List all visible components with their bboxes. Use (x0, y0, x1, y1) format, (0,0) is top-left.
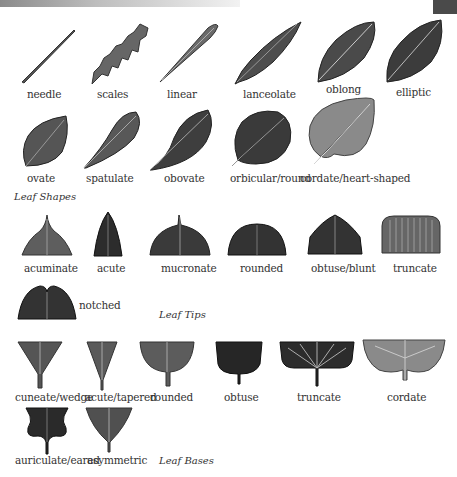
auriculate-base-icon (26, 408, 68, 454)
label-cordate-heart: cordate/heart-shaped (300, 172, 410, 184)
label-cuneate-wedge: cuneate/wedge (15, 391, 93, 403)
label-acute: acute (97, 262, 125, 274)
top-gradient-bar (0, 0, 240, 7)
label-needle: needle (27, 88, 61, 100)
label-mucronate: mucronate (161, 262, 217, 274)
ovate-leaf-icon (22, 114, 70, 168)
label-acute-tapered: acute/tapered (85, 391, 157, 403)
label-obovate: obovate (164, 172, 205, 184)
spatulate-leaf-icon (82, 110, 142, 170)
mucronate-tip-icon (150, 213, 210, 257)
scales-leaf-icon (88, 22, 150, 88)
label-obtuse-blunt: obtuse/blunt (311, 262, 376, 274)
label-linear: linear (167, 88, 197, 100)
obovate-leaf-icon (148, 108, 214, 172)
rounded-base-icon (140, 342, 194, 386)
orbicular-leaf-icon (230, 108, 294, 168)
section-title-leaf-bases: Leaf Bases (159, 455, 214, 466)
label-orbicular: orbicular/round (230, 172, 311, 184)
corner-tab (433, 0, 457, 14)
label-oblong: oblong (326, 83, 361, 95)
rounded-tip-icon (228, 222, 286, 256)
acuminate-tip-icon (22, 213, 72, 257)
acute-tip-icon (94, 211, 122, 257)
truncate-base-icon (280, 342, 354, 386)
obtuse-base-icon (216, 342, 262, 384)
cuneate-base-icon (18, 342, 62, 388)
asymmetric-base-icon (86, 408, 132, 452)
acute-tapered-base-icon (87, 342, 117, 390)
elliptic-leaf-icon (385, 18, 445, 84)
needle-leaf-icon (18, 26, 78, 86)
label-scales: scales (97, 88, 128, 100)
notched-tip-icon (18, 284, 76, 320)
oblong-leaf-icon (316, 18, 378, 84)
label-notched: notched (79, 299, 120, 311)
label-obtuse-base: obtuse (224, 391, 258, 403)
label-acuminate: acuminate (24, 262, 78, 274)
label-truncate-base: truncate (297, 391, 341, 403)
obtuse-tip-icon (308, 213, 362, 255)
lanceolate-leaf-icon (233, 20, 303, 86)
label-truncate-tip: truncate (393, 262, 437, 274)
label-elliptic: elliptic (396, 86, 431, 98)
cordate-leaf-icon (306, 96, 376, 166)
linear-leaf-icon (158, 22, 220, 84)
label-rounded-base: rounded (150, 391, 193, 403)
cordate-base-icon (363, 340, 445, 384)
truncate-tip-icon (382, 214, 440, 254)
section-title-leaf-tips: Leaf Tips (159, 309, 206, 320)
label-cordate-base: cordate (387, 391, 426, 403)
label-rounded-tip: rounded (240, 262, 283, 274)
label-spatulate: spatulate (86, 172, 134, 184)
label-ovate: ovate (27, 172, 55, 184)
label-asymmetric: asymmetric (87, 454, 147, 466)
section-title-leaf-shapes: Leaf Shapes (14, 191, 76, 202)
label-lanceolate: lanceolate (243, 88, 296, 100)
